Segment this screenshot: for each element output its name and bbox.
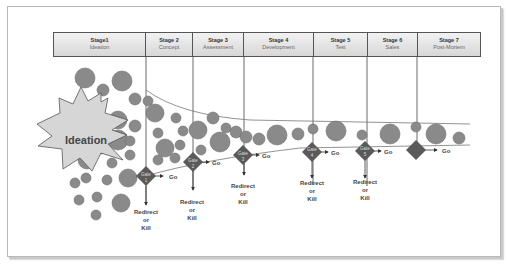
redirect-label: Redirect [134,209,158,215]
gate-label: Gate [141,172,151,177]
redirect-label: Redirect [300,180,324,186]
kill-label: Kill [360,195,370,201]
or-label: or [362,187,369,193]
gate-label: Gate [238,151,248,156]
or-label: or [240,191,247,197]
kill-label: Kill [141,225,151,231]
kill-label: Kill [187,215,197,221]
go-label: Go [262,153,271,159]
gate-label: Gate [360,146,370,151]
gate-label: Gate [188,158,198,163]
gate-label: Gate [307,147,317,152]
gate-6: Go [406,140,451,160]
redirect-label: Redirect [180,199,204,205]
funnel-top-curve [146,90,470,124]
or-label: or [309,188,316,194]
gate-4: Gate 4 Go Redirect or Kill [300,142,340,202]
redirect-label: Redirect [231,183,255,189]
go-label: Go [169,174,178,180]
ideation-label: Ideation [65,134,107,146]
or-label: or [143,217,150,223]
gate-3: Gate 3 Go Redirect or Kill [231,145,271,205]
go-label: Go [384,149,393,155]
kill-label: Kill [307,196,317,202]
idea-circles [63,68,465,220]
gate-diamond [355,141,375,161]
gate-5: Gate 5 Go Redirect or Kill [353,141,393,201]
gate-diamond [406,140,426,160]
kill-label: Kill [238,199,248,205]
gate-1: Gate 1 Go Redirect or Kill [134,166,178,231]
go-label: Go [212,160,221,166]
or-label: or [189,207,196,213]
funnel-diagram: Ideation Gate 1 Go Redirect or Kill Gate… [0,0,507,266]
redirect-label: Redirect [353,179,377,185]
go-label: Go [331,150,340,156]
go-label: Go [442,148,451,154]
gate-diamond [302,142,322,162]
gate-2: Gate 2 Go Redirect or Kill [180,152,221,221]
